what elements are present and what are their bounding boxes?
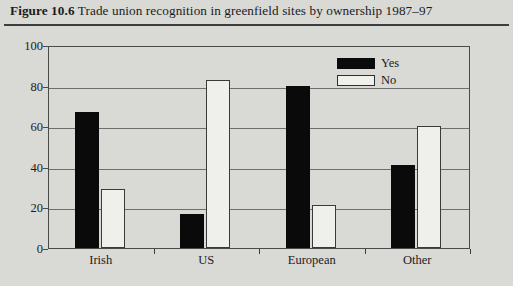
x-axis-tick-mark: [470, 249, 471, 254]
y-axis-tick-label: 0: [1, 243, 43, 256]
y-axis-tick-label: 20: [1, 202, 43, 215]
x-axis-tick-label: Other: [403, 253, 431, 268]
legend-swatch-yes: [337, 58, 375, 69]
figure-number: Figure 10.6: [10, 3, 75, 18]
y-axis: 020406080100: [0, 46, 43, 249]
y-axis-tick-label: 100: [1, 40, 43, 53]
figure-caption: Figure 10.6 Trade union recognition in g…: [10, 3, 505, 21]
x-axis: IrishUSEuropeanOther: [48, 253, 470, 273]
bar-irish-yes: [75, 112, 99, 248]
legend-item-no: No: [337, 74, 432, 87]
title-divider: [4, 24, 509, 26]
chart-legend: Yes No: [337, 57, 432, 89]
bar-other-no: [417, 126, 441, 248]
gridline: [49, 128, 469, 129]
x-axis-tick-label: European: [288, 253, 336, 268]
legend-label-no: No: [381, 73, 396, 87]
figure-container: Figure 10.6 Trade union recognition in g…: [0, 0, 513, 286]
bar-european-yes: [286, 86, 310, 248]
bar-european-no: [312, 205, 336, 248]
bar-us-no: [206, 80, 230, 248]
legend-label-yes: Yes: [381, 56, 399, 70]
x-axis-tick-label: Irish: [89, 253, 112, 268]
legend-swatch-no: [337, 75, 375, 86]
figure-caption-text: Trade union recognition in greenfield si…: [75, 3, 433, 18]
legend-item-yes: Yes: [337, 57, 432, 70]
y-axis-tick-label: 60: [1, 121, 43, 134]
bar-us-yes: [180, 214, 204, 249]
y-axis-tick-label: 40: [1, 162, 43, 175]
bar-irish-no: [101, 189, 125, 248]
bar-other-yes: [391, 165, 415, 248]
x-axis-tick-label: US: [198, 253, 214, 268]
y-axis-tick-label: 80: [1, 80, 43, 93]
